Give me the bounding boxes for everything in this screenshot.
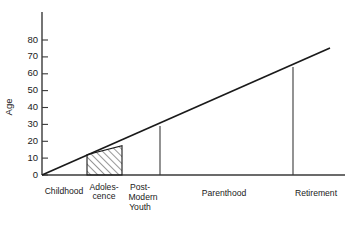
y-tick-label-70: 70	[27, 50, 38, 61]
stage-label-post-modern-youth-line3: Youth	[129, 202, 151, 212]
age-trend-line	[42, 48, 330, 175]
y-axis-ticks	[42, 40, 48, 175]
stage-label-childhood: Childhood	[45, 186, 84, 196]
y-axis-title: Age	[3, 99, 14, 116]
chart-canvas: 0 10 20 30 40 50 60 70 80 Age Childhood …	[0, 0, 353, 225]
y-tick-label-60: 60	[27, 67, 38, 78]
stage-label-retirement: Retirement	[295, 188, 338, 198]
stage-dividers	[160, 67, 293, 175]
age-life-stage-chart: 0 10 20 30 40 50 60 70 80 Age Childhood …	[0, 0, 353, 225]
axes-group	[42, 12, 345, 175]
y-tick-label-40: 40	[27, 101, 38, 112]
stage-label-post-modern-youth-line2: Modern	[128, 192, 157, 202]
y-tick-label-30: 30	[27, 118, 38, 129]
y-tick-label-20: 20	[27, 135, 38, 146]
y-axis-tick-labels: 0 10 20 30 40 50 60 70 80	[27, 34, 38, 180]
stage-label-adolescence-line2: cence	[93, 191, 116, 201]
y-tick-label-0: 0	[33, 169, 38, 180]
y-tick-label-50: 50	[27, 84, 38, 95]
y-tick-label-80: 80	[27, 34, 38, 45]
stage-label-parenthood: Parenthood	[202, 188, 247, 198]
y-tick-label-10: 10	[27, 152, 38, 163]
stage-labels: Childhood Adoles- cence Post- Modern You…	[45, 182, 338, 212]
stage-label-post-modern-youth-line1: Post-	[130, 182, 150, 192]
adolescence-hatched-region	[87, 146, 122, 175]
